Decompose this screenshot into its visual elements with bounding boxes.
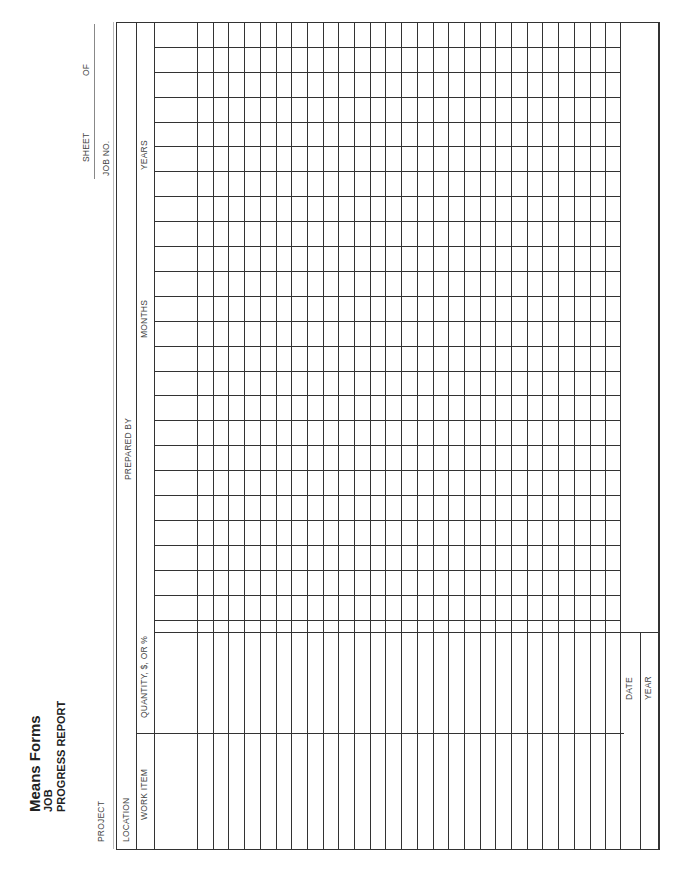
title-job: JOB	[42, 789, 54, 812]
progress-grid[interactable]	[154, 22, 620, 632]
years-header: YEARS	[139, 140, 149, 170]
frame-right	[658, 22, 660, 850]
grid-month-line	[154, 97, 620, 98]
job-no-label: JOB NO.	[101, 141, 111, 176]
grid-month-line	[154, 395, 620, 396]
frame-left	[116, 22, 117, 850]
title-progress-report: PROGRESS REPORT	[55, 701, 67, 812]
brand-name: Means Forms	[26, 715, 43, 812]
grid-month-line	[154, 346, 620, 347]
prepared-by-label: PREPARED BY	[123, 418, 133, 480]
quantity-header: QUANTITY, $, OR %	[139, 636, 149, 718]
grid-month-line	[154, 321, 620, 322]
grid-month-line	[154, 470, 620, 471]
grid-month-line	[154, 520, 620, 521]
grid-month-line	[154, 570, 620, 571]
date-label: DATE	[624, 677, 634, 700]
work-item-header: WORK ITEM	[139, 769, 149, 820]
grid-month-line	[154, 72, 620, 73]
grid-month-line	[154, 595, 620, 596]
months-header: MONTHS	[139, 300, 149, 338]
grid-month-line	[154, 296, 620, 297]
grid-month-line	[154, 171, 620, 172]
sheet-field-line[interactable]	[94, 24, 95, 179]
grid-month-line	[154, 47, 620, 48]
grid-month-line	[154, 196, 620, 197]
year-label: YEAR	[643, 676, 653, 700]
date-column-line	[620, 22, 621, 849]
grid-month-line	[154, 246, 620, 247]
grid-month-line	[154, 545, 620, 546]
grid-month-line	[154, 495, 620, 496]
grid-bottom-boundary	[154, 632, 659, 633]
project-label: PROJECT	[96, 801, 106, 842]
sheet-label: SHEET	[81, 133, 91, 162]
year-column-line	[640, 632, 641, 849]
of-label: OF	[81, 64, 91, 76]
grid-month-line	[154, 146, 620, 147]
work-item-quantity-divider	[136, 733, 624, 734]
grid-month-line	[154, 122, 620, 123]
grid-month-line	[154, 271, 620, 272]
project-field-line[interactable]	[113, 22, 114, 849]
grid-month-line	[154, 371, 620, 372]
location-band-divider	[136, 22, 137, 849]
location-label: LOCATION	[121, 798, 131, 842]
grid-month-line	[154, 420, 620, 421]
frame-bottom	[116, 849, 659, 850]
grid-month-line	[154, 620, 620, 621]
grid-month-line	[154, 221, 620, 222]
grid-month-line	[154, 445, 620, 446]
